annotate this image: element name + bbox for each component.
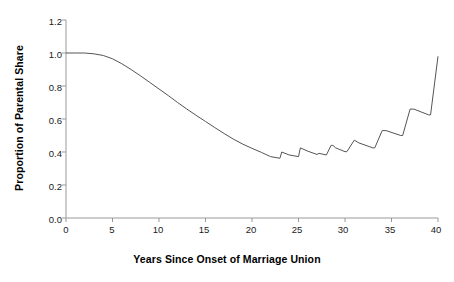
plot-area — [0, 0, 454, 282]
chart-figure: Proportion of Parental Share Years Since… — [0, 0, 454, 282]
data-line — [66, 53, 438, 158]
